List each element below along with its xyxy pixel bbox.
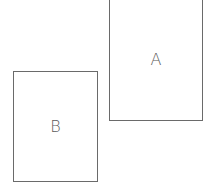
rectangle-b-label: B bbox=[50, 119, 60, 135]
rectangle-a: A bbox=[109, 0, 203, 121]
rectangle-a-label: A bbox=[151, 52, 162, 68]
rectangle-b: B bbox=[13, 71, 98, 182]
